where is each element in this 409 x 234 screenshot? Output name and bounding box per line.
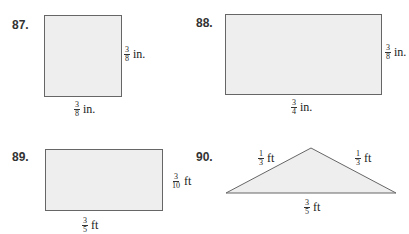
left-label-90: 13 ft: [258, 150, 274, 167]
fraction: 13: [355, 150, 361, 167]
fraction: 35: [304, 199, 310, 216]
triangle-figure-90: [0, 0, 409, 234]
right-label-90: 13 ft: [355, 150, 371, 167]
fraction: 13: [258, 150, 264, 167]
bottom-label-90: 35 ft: [304, 199, 320, 216]
